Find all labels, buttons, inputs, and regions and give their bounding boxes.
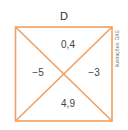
top-value: 0,4 — [53, 39, 83, 50]
left-value: −5 — [23, 67, 53, 78]
right-value: −3 — [79, 67, 109, 78]
bottom-value: 4,9 — [53, 98, 83, 109]
image-credit: Ilustrações: DAE — [114, 30, 120, 67]
square-diagram — [0, 0, 128, 130]
